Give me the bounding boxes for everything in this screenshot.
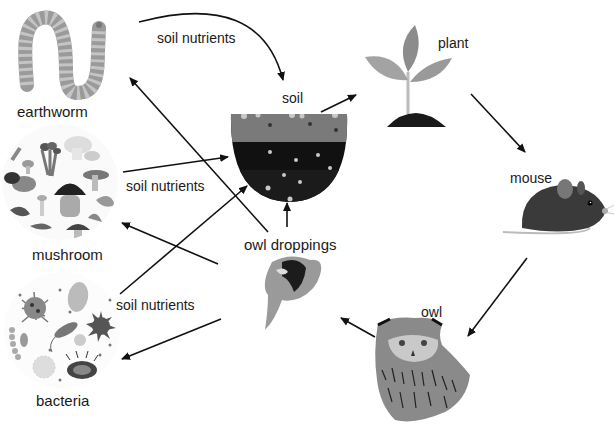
arrow-plant-to-mouse — [471, 94, 525, 152]
label-bacteria: bacteria — [36, 392, 89, 409]
label-owl-droppings: owl droppings — [244, 236, 337, 253]
label-soil-nutrients-bacteria: soil nutrients — [116, 297, 195, 313]
arrow-mouse-to-owl — [468, 258, 527, 336]
label-mushroom: mushroom — [32, 246, 103, 263]
arrow-owl-to-droppings — [341, 318, 375, 337]
arrow-droppings-to-mushroom — [122, 223, 218, 264]
arrow-earthworm-to-soil — [139, 14, 283, 80]
arrow-bacteria-to-soil — [120, 186, 247, 294]
arrow-droppings-to-earthworm — [130, 78, 268, 232]
label-owl: owl — [421, 304, 442, 320]
arrow-droppings-to-bacteria — [122, 319, 221, 359]
label-plant: plant — [438, 35, 468, 51]
label-mouse: mouse — [510, 170, 552, 186]
arrow-soil-to-plant — [321, 95, 356, 112]
label-soil-nutrients-mushroom: soil nutrients — [126, 178, 205, 194]
label-earthworm: earthworm — [17, 103, 88, 120]
label-soil-nutrients-earthworm: soil nutrients — [157, 30, 236, 46]
arrows-layer — [0, 0, 614, 427]
label-soil: soil — [282, 90, 303, 106]
